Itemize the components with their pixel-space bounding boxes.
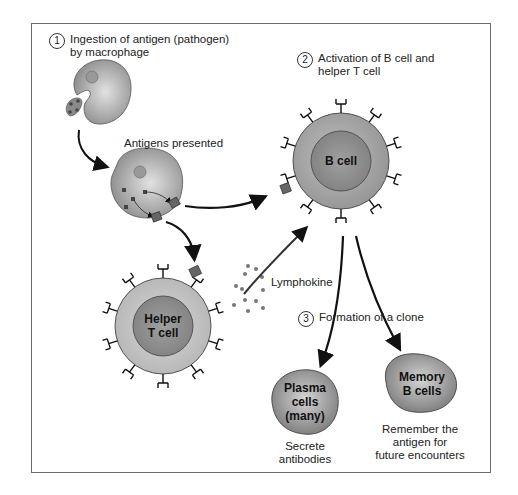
step-2-label: 2 Activation of B cell andhelper T cell xyxy=(297,52,434,78)
step-1-label: 1 Ingestion of antigen (pathogen)by macr… xyxy=(49,33,229,59)
memory-caption: Remember theantigen forfuture encounters xyxy=(370,423,470,462)
lymphokine-label: Lymphokine xyxy=(271,276,333,289)
arrow-to-memory xyxy=(356,236,398,346)
plasma-caption: Secreteantibodies xyxy=(265,440,345,466)
antigen-presenting-cell xyxy=(111,148,183,222)
plasma-cells-label: Plasmacells(many) xyxy=(275,381,335,423)
step-3-number: 3 xyxy=(298,311,314,327)
immune-response-diagram xyxy=(0,0,518,495)
memory-b-cells-label: MemoryB cells xyxy=(392,370,452,398)
step-1-number: 1 xyxy=(49,33,65,49)
arrow-ingest-to-present xyxy=(79,130,104,166)
arrow-to-b-cell xyxy=(185,198,262,208)
b-cell-label: B cell xyxy=(311,154,371,168)
arrow-to-plasma xyxy=(322,236,343,362)
antigens-presented-label: Antigens presented xyxy=(124,137,223,150)
helper-t-cell-label: HelperT cell xyxy=(133,312,193,340)
step-2-number: 2 xyxy=(297,52,313,68)
macrophage xyxy=(66,60,131,124)
arrow-to-helper-t xyxy=(166,222,194,256)
step-3-label: 3 Formation of a clone xyxy=(298,311,424,327)
